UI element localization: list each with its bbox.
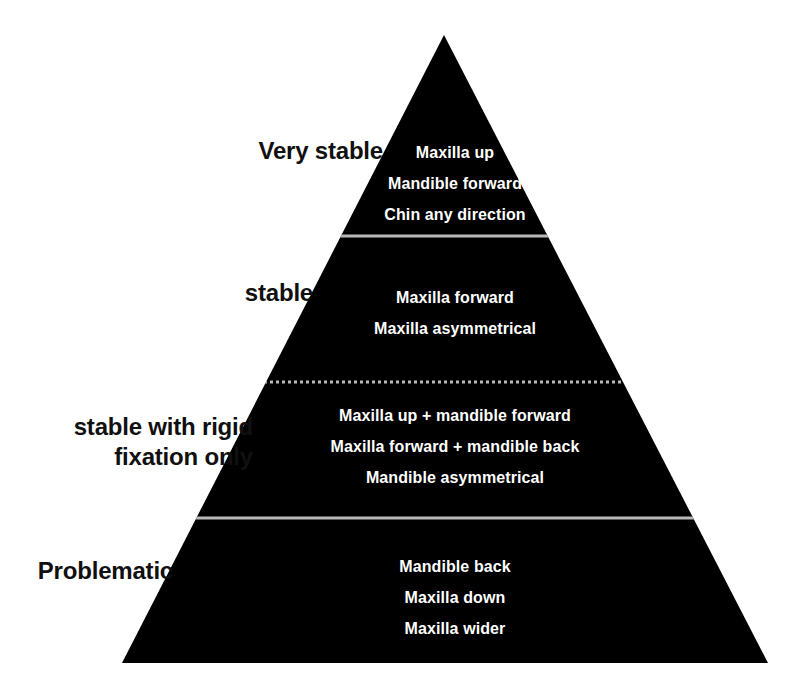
- tier-item: Maxilla up: [245, 137, 665, 168]
- tier-item: Maxilla up + mandible forward: [245, 400, 665, 431]
- tier-items-stable: Maxilla forward Maxilla asymmetrical: [245, 282, 665, 344]
- tier-item: Maxilla asymmetrical: [245, 313, 665, 344]
- tier-items-stable-with-rigid-fixation-only: Maxilla up + mandible forward Maxilla fo…: [245, 400, 665, 493]
- tier-item: Maxilla forward: [245, 282, 665, 313]
- tier-label-stable-with-rigid-fixation-only: stable with rigid fixation only: [74, 412, 253, 472]
- tier-item: Chin any direction: [245, 199, 665, 230]
- tier-item: Maxilla down: [245, 582, 665, 613]
- tier-item: Maxilla forward + mandible back: [245, 431, 665, 462]
- tier-item: Maxilla wider: [245, 613, 665, 644]
- stability-pyramid-figure: Very stable Maxilla up Mandible forward …: [0, 0, 793, 691]
- tier-items-problematic: Mandible back Maxilla down Maxilla wider: [245, 551, 665, 644]
- tier-item: Mandible back: [245, 551, 665, 582]
- tier-items-very-stable: Maxilla up Mandible forward Chin any dir…: [245, 137, 665, 230]
- tier-label-problematic: Problematic: [38, 556, 173, 586]
- tier-item: Mandible asymmetrical: [245, 462, 665, 493]
- tier-item: Mandible forward: [245, 168, 665, 199]
